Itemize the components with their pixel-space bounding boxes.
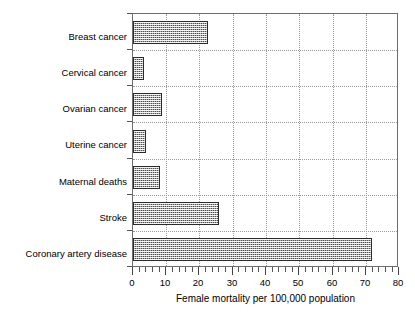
plot-area bbox=[132, 13, 398, 267]
x-axis-tick-minor bbox=[185, 267, 186, 272]
x-axis-tick-minor bbox=[225, 267, 226, 272]
x-axis-tick-label: 20 bbox=[193, 277, 204, 289]
gridline-horizontal bbox=[133, 122, 397, 123]
x-axis-tick-major bbox=[132, 267, 133, 275]
gridline-vertical bbox=[199, 14, 200, 266]
x-axis-tick-major bbox=[265, 267, 266, 275]
x-axis-tick-major bbox=[198, 267, 199, 275]
gridline-horizontal bbox=[133, 159, 397, 160]
x-axis-tick-minor bbox=[312, 267, 313, 272]
x-axis-tick-minor bbox=[192, 267, 193, 272]
gridline-vertical bbox=[166, 14, 167, 266]
x-axis-tick-minor bbox=[145, 267, 146, 272]
x-axis-tick-minor bbox=[352, 267, 353, 272]
x-axis-tick-minor bbox=[212, 267, 213, 272]
x-axis-tick-minor bbox=[345, 267, 346, 272]
x-axis-tick-minor bbox=[245, 267, 246, 272]
x-axis-tick-minor bbox=[258, 267, 259, 272]
x-axis-tick-minor bbox=[179, 267, 180, 272]
y-axis-label: Ovarian cancer bbox=[63, 103, 127, 114]
bar-coronary-artery-disease bbox=[133, 238, 372, 261]
x-axis-tick-minor bbox=[358, 267, 359, 272]
gridline-vertical bbox=[299, 14, 300, 266]
gridline-vertical bbox=[233, 14, 234, 266]
x-axis-tick-minor bbox=[285, 267, 286, 272]
x-axis-tick-label: 50 bbox=[293, 277, 304, 289]
x-axis-tick-minor bbox=[139, 267, 140, 272]
gridline-vertical bbox=[333, 14, 334, 266]
x-axis-tick-minor bbox=[272, 267, 273, 272]
y-axis-label: Breast cancer bbox=[68, 31, 127, 42]
x-axis-tick-minor bbox=[372, 267, 373, 272]
x-axis-tick-minor bbox=[252, 267, 253, 272]
x-axis-tick-minor bbox=[172, 267, 173, 272]
y-axis-labels: Breast cancer Cervical cancer Ovarian ca… bbox=[0, 13, 127, 267]
x-axis-tick-minor bbox=[338, 267, 339, 272]
x-axis-tick-label: 10 bbox=[160, 277, 171, 289]
x-axis-tick-minor bbox=[159, 267, 160, 272]
x-axis-tick-minor bbox=[385, 267, 386, 272]
x-axis-tick-label: 30 bbox=[227, 277, 238, 289]
x-axis-tick-minor bbox=[325, 267, 326, 272]
x-axis-tick-label: 60 bbox=[327, 277, 338, 289]
x-axis-tick-minor bbox=[318, 267, 319, 272]
x-axis-tick-label: 0 bbox=[129, 277, 134, 289]
y-axis-label: Stroke bbox=[100, 212, 127, 223]
x-axis-tick-minor bbox=[392, 267, 393, 272]
x-axis-tick-labels: 0 10 20 30 40 50 60 70 80 bbox=[0, 277, 415, 291]
y-axis-label: Maternal deaths bbox=[59, 176, 127, 187]
gridline-horizontal bbox=[133, 231, 397, 232]
bar-chart: Breast cancer Cervical cancer Ovarian ca… bbox=[0, 0, 415, 319]
y-axis-label: Cervical cancer bbox=[62, 67, 127, 78]
x-axis-tick-minor bbox=[292, 267, 293, 272]
bar-ovarian-cancer bbox=[133, 93, 162, 116]
y-axis-label: Coronary artery disease bbox=[26, 248, 127, 259]
x-axis-tick-major bbox=[165, 267, 166, 275]
x-axis-tick-minor bbox=[152, 267, 153, 272]
bar-breast-cancer bbox=[133, 21, 208, 44]
x-axis-tick-major bbox=[232, 267, 233, 275]
x-axis-tick-label: 40 bbox=[260, 277, 271, 289]
x-axis-tick-major bbox=[332, 267, 333, 275]
x-axis-tick-minor bbox=[238, 267, 239, 272]
gridline-horizontal bbox=[133, 86, 397, 87]
bar-maternal-deaths bbox=[133, 166, 160, 189]
x-axis-tick-label: 70 bbox=[360, 277, 371, 289]
x-axis-tick-minor bbox=[278, 267, 279, 272]
bar-uterine-cancer bbox=[133, 130, 146, 153]
x-axis-tick-label: 80 bbox=[393, 277, 404, 289]
gridline-vertical bbox=[366, 14, 367, 266]
x-axis-tick-major bbox=[365, 267, 366, 275]
bar-cervical-cancer bbox=[133, 57, 144, 80]
x-axis-tick-major bbox=[398, 267, 399, 275]
gridline-vertical bbox=[266, 14, 267, 266]
gridline-horizontal bbox=[133, 50, 397, 51]
x-axis-tick-major bbox=[298, 267, 299, 275]
x-axis-title: Female mortality per 100,000 population bbox=[132, 292, 399, 305]
x-axis-ticks bbox=[132, 267, 399, 276]
bar-stroke bbox=[133, 202, 219, 225]
x-axis-tick-minor bbox=[218, 267, 219, 272]
gridline-horizontal bbox=[133, 195, 397, 196]
x-axis-tick-minor bbox=[205, 267, 206, 272]
x-axis-tick-minor bbox=[305, 267, 306, 272]
y-axis-label: Uterine cancer bbox=[65, 139, 127, 150]
x-axis-tick-minor bbox=[378, 267, 379, 272]
